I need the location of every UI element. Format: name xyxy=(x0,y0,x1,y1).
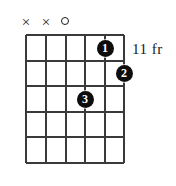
fret-line-4 xyxy=(26,136,124,137)
finger-dot-1: 1 xyxy=(97,40,114,57)
fret-line-2 xyxy=(26,85,124,86)
chord-diagram: 1 2 3 11 fr xyxy=(0,0,176,186)
fret-position-label: 11 fr xyxy=(132,41,163,58)
string-marker-3-open xyxy=(58,14,74,30)
fret-line-3 xyxy=(26,111,124,112)
string-line-2 xyxy=(45,35,46,163)
string-markers-row xyxy=(0,14,176,32)
fret-line-5 xyxy=(26,162,124,163)
string-line-3 xyxy=(65,35,66,163)
fretboard-grid: 1 2 3 xyxy=(26,35,124,163)
string-marker-2-muted xyxy=(38,14,54,30)
string-marker-1-muted xyxy=(18,14,34,30)
string-line-1 xyxy=(25,35,26,163)
finger-dot-2: 2 xyxy=(116,65,133,82)
fret-line-0 xyxy=(26,34,124,35)
string-line-6 xyxy=(123,35,124,163)
fret-line-1 xyxy=(26,60,124,61)
finger-dot-3: 3 xyxy=(77,91,94,108)
